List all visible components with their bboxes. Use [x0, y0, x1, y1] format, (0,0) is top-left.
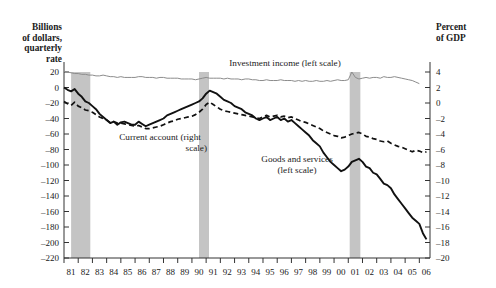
x-tick-label: 95: [265, 267, 275, 277]
x-tick-label: 86: [138, 267, 148, 277]
x-tick-label: 02: [365, 267, 374, 277]
data-series: [64, 71, 426, 239]
x-tick-label: 03: [379, 267, 389, 277]
left-tick-label: –40: [45, 114, 60, 124]
chart-plot: 200–20–40–60–80–100–120–140–160–180–200–…: [0, 0, 496, 288]
x-tick-label: 89: [180, 267, 190, 277]
right-tick-label: –20: [435, 253, 450, 263]
x-tick-label: 96: [280, 267, 290, 277]
series-solid-thin: [64, 71, 419, 83]
annotation-current-account-line-1: Current account (right: [119, 132, 201, 142]
left-tick-label: –60: [45, 129, 60, 139]
right-tick-label: 0: [436, 98, 441, 108]
x-tick-label: 05: [408, 267, 418, 277]
left-tick-label: –120: [40, 176, 60, 186]
left-tick-label: –180: [40, 222, 60, 232]
left-tick-label: –220: [40, 253, 60, 263]
x-tick-label: 85: [123, 267, 133, 277]
x-tick-label: 04: [393, 267, 403, 277]
annotation-labels: Investment income (left scale)Current ac…: [119, 58, 341, 175]
left-tick-label: –200: [40, 238, 60, 248]
right-tick-label: 2: [436, 83, 441, 93]
right-axis-ticks: 420–2–4–6–8–10–12–14–16–18–20: [425, 67, 450, 263]
x-tick-label: 81: [67, 267, 76, 277]
x-tick-label: 00: [337, 267, 347, 277]
annotation-current-account-line-2: scale): [186, 143, 207, 153]
x-tick-label: 93: [237, 267, 247, 277]
right-tick-label: –12: [435, 191, 450, 201]
right-tick-label: –6: [435, 145, 446, 155]
recession-band-2: [350, 72, 361, 258]
left-tick-label: –140: [40, 191, 60, 201]
right-tick-label: –18: [435, 238, 450, 248]
right-tick-label: –4: [435, 129, 446, 139]
x-tick-label: 90: [194, 267, 204, 277]
chart-figure: Billions of dollars, quarterly rate Perc…: [0, 0, 496, 288]
annotation-goods-services-line-2: (left scale): [277, 165, 316, 175]
x-tick-label: 99: [322, 267, 332, 277]
x-tick-label: 91: [209, 267, 218, 277]
series-dashed: [64, 101, 426, 152]
right-tick-label: –16: [435, 222, 450, 232]
right-tick-label: 4: [436, 67, 441, 77]
x-tick-label: 94: [251, 267, 261, 277]
right-tick-label: –8: [435, 160, 446, 170]
x-axis-ticks: 8182838485868788899091929394959697989900…: [64, 258, 431, 277]
x-tick-label: 01: [351, 267, 360, 277]
x-tick-label: 88: [166, 267, 176, 277]
series-solid-thick: [64, 88, 426, 240]
x-tick-label: 83: [95, 267, 105, 277]
x-tick-label: 84: [109, 267, 119, 277]
recession-bands: [71, 72, 360, 258]
right-tick-label: –10: [435, 176, 450, 186]
left-tick-label: –100: [40, 160, 60, 170]
left-tick-label: –80: [45, 145, 60, 155]
annotation-investment-income: Investment income (left scale): [229, 58, 340, 68]
x-tick-label: 98: [308, 267, 318, 277]
right-tick-label: –14: [435, 207, 450, 217]
x-tick-label: 92: [223, 267, 232, 277]
x-tick-label: 06: [422, 267, 432, 277]
x-tick-label: 82: [81, 267, 90, 277]
left-tick-label: 0: [55, 83, 60, 93]
annotation-goods-services-line-1: Goods and services: [261, 154, 333, 164]
left-tick-label: –160: [40, 207, 60, 217]
recession-band-0: [71, 72, 90, 258]
left-tick-label: 20: [50, 67, 60, 77]
left-axis-ticks: 200–20–40–60–80–100–120–140–160–180–200–…: [40, 67, 69, 263]
right-tick-label: –2: [435, 114, 445, 124]
x-tick-label: 97: [294, 267, 304, 277]
x-tick-label: 87: [152, 267, 162, 277]
left-tick-label: –20: [45, 98, 60, 108]
